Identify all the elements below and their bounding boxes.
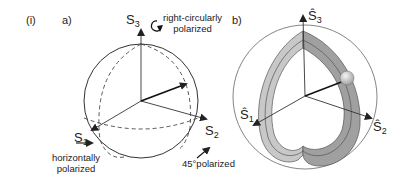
s2-hat-label: Ŝ2 <box>373 120 387 136</box>
diagonal-arrow-icon <box>197 148 209 158</box>
state-vector <box>141 84 186 101</box>
panel-b-label: b) <box>232 15 242 26</box>
figure-label: (i) <box>26 15 36 26</box>
s1-note: horizontally polarized <box>52 152 100 174</box>
s3-hat-label: Ŝ3 <box>308 9 322 25</box>
s2-label: S2 <box>205 124 219 140</box>
s2-note: 45°polarized <box>182 158 235 169</box>
s3-label: S3 <box>126 13 140 29</box>
panel-a-label: a) <box>62 15 72 26</box>
s3-note: right-circularly polarized <box>163 12 222 34</box>
state-ball <box>340 71 354 85</box>
s1-hat-label: Ŝ1 <box>240 108 254 124</box>
s1-label: S1 <box>74 131 88 147</box>
sphere-b <box>233 16 377 169</box>
s2-axis <box>141 101 206 119</box>
sphere-a <box>76 21 209 158</box>
